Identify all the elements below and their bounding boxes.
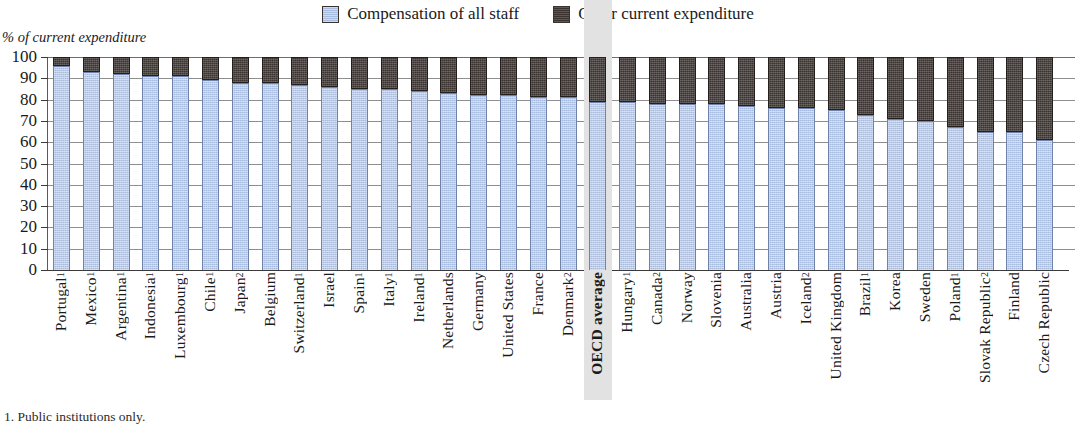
x-axis-label-text: Japan2: [231, 272, 248, 314]
x-axis-label: Chile1: [201, 272, 218, 312]
x-axis-label-text: Iceland2: [797, 272, 814, 324]
x-axis-label-text: OECD average: [588, 272, 605, 375]
bar-column: [202, 57, 219, 270]
x-axis-label-text: Switzerland1: [290, 272, 307, 353]
bar-segment-other-expenditure: [500, 57, 517, 95]
x-axis-label: Italy1: [380, 272, 397, 307]
bar-column: [381, 57, 398, 270]
y-tick-100: [41, 57, 48, 58]
y-tick-label-0: 0: [29, 260, 38, 280]
x-axis-label-text: Italy1: [380, 272, 397, 307]
x-axis-label-text: Luxembourg1: [171, 272, 188, 359]
y-tick-label-50: 50: [20, 154, 37, 174]
x-axis-label-footnote-mark: 1: [353, 272, 364, 277]
bar-segment-compensation: [887, 119, 904, 270]
bar-segment-compensation: [440, 93, 457, 270]
bar-segment-compensation: [470, 95, 487, 270]
x-axis-label: OECD average: [588, 272, 605, 375]
y-tick-label-20: 20: [20, 217, 37, 237]
y-tick-10: [41, 249, 48, 250]
bar-segment-compensation: [53, 66, 70, 270]
x-axis-label-text: Korea: [886, 272, 903, 311]
x-axis-label-text: Hungary1: [618, 272, 635, 333]
x-axis-label: Netherlands: [439, 272, 456, 349]
y-tick-70: [41, 121, 48, 122]
bar-segment-other-expenditure: [411, 57, 428, 91]
y-tick-90: [41, 78, 48, 79]
x-axis-label: Korea: [886, 272, 903, 311]
x-axis-label: Indonesia1: [141, 272, 158, 339]
x-axis-label-footnote-mark: 1: [621, 272, 632, 277]
x-axis-label-text: United Kingdom: [827, 272, 844, 379]
y-tick-label-60: 60: [20, 132, 37, 152]
x-axis-label: Spain1: [350, 272, 367, 314]
bar-column: [351, 57, 368, 270]
bar-column: [113, 57, 130, 270]
y-tick-50: [41, 164, 48, 165]
y-tick-40: [41, 185, 48, 186]
bar-column: [500, 57, 517, 270]
x-axis-label-text: Israel: [320, 272, 337, 308]
x-axis-label-text: France: [529, 272, 546, 315]
bar-segment-other-expenditure: [768, 57, 785, 108]
x-axis-label-text: Portugal1: [52, 272, 69, 331]
y-tick-label-70: 70: [20, 111, 37, 131]
y-axis-caption: % of current expenditure: [2, 29, 146, 46]
bar-column: [530, 57, 547, 270]
x-axis-label-text: Mexico1: [82, 272, 99, 326]
x-axis-label-footnote-mark: 1: [115, 272, 126, 277]
x-axis-label: Hungary1: [618, 272, 635, 333]
legend-label-compensation: Compensation of all staff: [347, 4, 519, 24]
x-axis-label: Austria: [767, 272, 784, 319]
x-axis-label-footnote-mark: 2: [800, 272, 811, 277]
y-tick-label-30: 30: [20, 196, 37, 216]
bar-segment-compensation: [172, 76, 189, 270]
bar-segment-compensation: [411, 91, 428, 270]
x-axis-label-footnote-mark: 1: [174, 272, 185, 277]
x-axis-label-footnote-mark: 2: [651, 272, 662, 277]
y-tick-label-40: 40: [20, 175, 37, 195]
x-axis-label: Israel: [320, 272, 337, 308]
x-axis-label-footnote-mark: 2: [562, 272, 573, 277]
x-axis-label-footnote-mark: 1: [85, 272, 96, 277]
bar-column: [619, 57, 636, 270]
x-axis-label: Norway: [678, 272, 695, 323]
x-axis-label: Australia: [737, 272, 754, 331]
bar-segment-compensation: [500, 95, 517, 270]
bar-column: [53, 57, 70, 270]
bar-segment-other-expenditure: [738, 57, 755, 106]
x-axis-label-footnote-mark: 1: [293, 272, 304, 277]
bar-segment-compensation: [619, 102, 636, 270]
bar-column: [768, 57, 785, 270]
bar-segment-other-expenditure: [828, 57, 845, 110]
legend-item-compensation: Compensation of all staff: [322, 4, 519, 24]
x-axis-label-text: Denmark2: [559, 272, 576, 336]
bar-segment-compensation: [917, 121, 934, 270]
x-axis-label: Japan2: [231, 272, 248, 314]
bar-segment-compensation: [202, 80, 219, 270]
x-axis-label-footnote-mark: 1: [949, 272, 960, 277]
bar-column: [679, 57, 696, 270]
bar-segment-other-expenditure: [619, 57, 636, 102]
x-axis-category-labels: Portugal1Mexico1Argentina1Indonesia1Luxe…: [47, 272, 1068, 400]
bar-segment-compensation: [560, 97, 577, 270]
x-axis-label-footnote-mark: 1: [859, 272, 870, 277]
bar-column: [1006, 57, 1023, 270]
chart-legend: Compensation of all staff Other current …: [0, 4, 1076, 24]
y-tick-label-100: 100: [12, 47, 38, 67]
x-axis-label: Argentina1: [112, 272, 129, 341]
x-axis-label: Poland1: [946, 272, 963, 321]
bar-segment-compensation: [83, 72, 100, 270]
bar-segment-other-expenditure: [142, 57, 159, 76]
bar-segment-other-expenditure: [202, 57, 219, 80]
bar-segment-other-expenditure: [649, 57, 666, 104]
x-axis-label-footnote-mark: 1: [413, 272, 424, 277]
x-axis-label-text: Belgium: [261, 272, 278, 327]
bar-segment-compensation: [381, 89, 398, 270]
x-axis-label: United Kingdom: [827, 272, 844, 379]
bar-column: [738, 57, 755, 270]
x-axis-label: France: [529, 272, 546, 315]
x-axis-label-text: Slovak Republic2: [976, 272, 993, 383]
x-axis-label-text: Austria: [767, 272, 784, 319]
bar-column: [291, 57, 308, 270]
